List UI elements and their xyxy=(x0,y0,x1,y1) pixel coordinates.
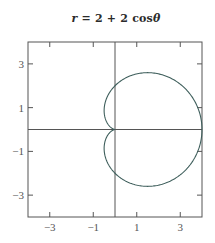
x-tick-label: 3 xyxy=(178,221,184,233)
x-tick-label: −3 xyxy=(44,221,56,233)
x-tick-label: 1 xyxy=(134,221,140,233)
y-tick-label: 3 xyxy=(19,58,25,70)
y-tick-label: −1 xyxy=(12,145,24,157)
plot-area: −3−113−3−113 xyxy=(0,0,215,243)
y-tick-label: −3 xyxy=(12,189,24,201)
y-tick-label: 1 xyxy=(19,102,25,114)
x-tick-label: −1 xyxy=(87,221,99,233)
tick-labels: −3−113−3−113 xyxy=(12,58,183,233)
